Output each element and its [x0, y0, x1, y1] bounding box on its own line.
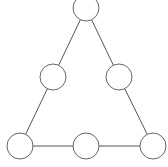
- node-bottom-middle: [73, 133, 99, 159]
- node-mid-left: [40, 64, 66, 90]
- node-mid-right: [106, 64, 132, 90]
- triangle-diagram: [0, 0, 168, 167]
- node-bottom-left: [7, 133, 33, 159]
- node-bottom-right: [140, 133, 166, 159]
- nodes: [7, 0, 166, 159]
- node-top: [73, 0, 99, 21]
